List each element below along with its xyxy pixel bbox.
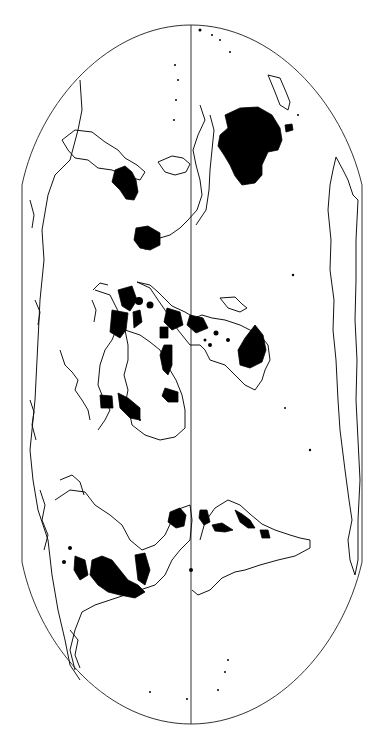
map-frame-outline: [22, 25, 362, 724]
map-container: [0, 0, 382, 742]
world-map: [0, 0, 382, 742]
